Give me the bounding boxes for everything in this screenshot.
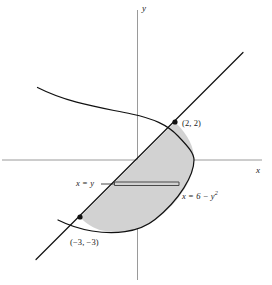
label-point-neg3-neg3: (−3, −3) xyxy=(70,238,99,247)
label-curve-x-equals-6-minus-y-squared: x = 6 − y2 xyxy=(182,190,218,200)
y-axis-label: y xyxy=(142,4,146,13)
curve-label-text: x = 6 − y xyxy=(182,191,215,201)
label-line-x-equals-y: x = y xyxy=(76,179,94,188)
curve-label-exponent: 2 xyxy=(215,189,218,196)
point-2-2 xyxy=(172,119,177,124)
figure-canvas: y x (2, 2) (−3, −3) x = y x = 6 − y2 xyxy=(0,0,272,285)
x-axis-label: x xyxy=(256,166,260,175)
plot-svg xyxy=(0,0,272,285)
label-point-2-2: (2, 2) xyxy=(182,119,201,128)
point-neg3-neg3 xyxy=(77,214,82,219)
